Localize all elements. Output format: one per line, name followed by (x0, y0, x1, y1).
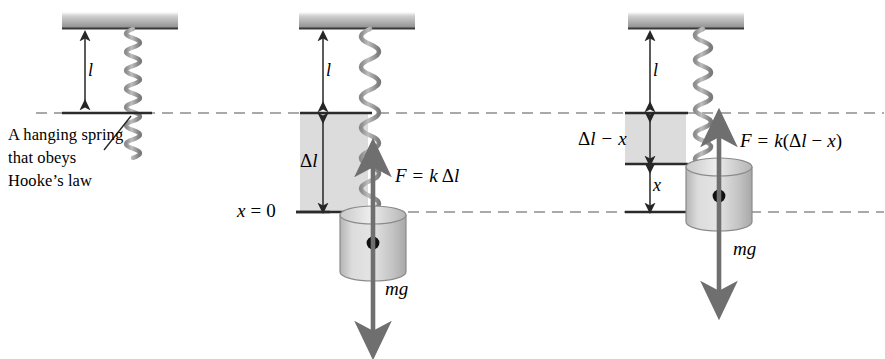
l-glyph-force-right: l (801, 130, 806, 151)
equals-glyph-middle: = (407, 165, 430, 186)
label-length-l-middle: l (326, 60, 331, 81)
equals-glyph-right: = (752, 130, 775, 151)
extension-shaded-band-right (625, 114, 686, 164)
delta-glyph-force-right: Δ (789, 130, 801, 151)
ceiling-middle (299, 12, 415, 29)
caption-line-1: A hanging spring (8, 125, 123, 144)
minus-glyph-force-right: − (807, 130, 828, 151)
equals-glyph-origin: = (245, 200, 266, 221)
hooke-law-figure: l A hanging spring that obeys Hooke’s la… (0, 0, 885, 359)
label-weight-mg-middle: mg (385, 278, 408, 300)
label-origin-x-equals-zero: x=0 (237, 200, 276, 222)
label-spring-force-right: F=k(Δl−x) (740, 130, 842, 152)
F-glyph-right: F (740, 130, 752, 151)
spring-left (126, 29, 140, 158)
spring-right (695, 29, 711, 178)
l-glyph-right: l (590, 128, 595, 149)
F-glyph-middle: F (395, 165, 407, 186)
minus-glyph-right: − (596, 128, 619, 149)
label-extension-delta-l-minus-x-right: Δl−x (578, 128, 627, 150)
label-weight-mg-right: mg (733, 238, 756, 260)
l-glyph-middle: l (312, 150, 317, 171)
delta-glyph-force-middle: Δ (438, 165, 454, 186)
close-paren-glyph-right: ) (836, 130, 842, 151)
k-glyph-right: k (774, 130, 782, 151)
delta-glyph-right: Δ (578, 128, 590, 149)
l-glyph-force-middle: l (454, 165, 459, 186)
caption-line-2: that obeys (8, 148, 76, 167)
label-displacement-x-right: x (653, 175, 661, 196)
label-spring-force-middle: F=kΔl (395, 165, 459, 187)
label-length-l-right: l (653, 60, 658, 81)
delta-glyph-middle: Δ (300, 150, 312, 171)
label-length-l-left: l (88, 60, 93, 81)
x-glyph-right: x (618, 128, 626, 149)
ceiling-left (62, 12, 178, 29)
zero-glyph-origin: 0 (266, 200, 276, 221)
label-extension-delta-l-middle: Δl (300, 150, 318, 172)
x-glyph-force-right: x (827, 130, 835, 151)
caption-line-3: Hooke’s law (8, 171, 92, 190)
ceiling-right (628, 12, 744, 29)
k-glyph-middle: k (429, 165, 437, 186)
